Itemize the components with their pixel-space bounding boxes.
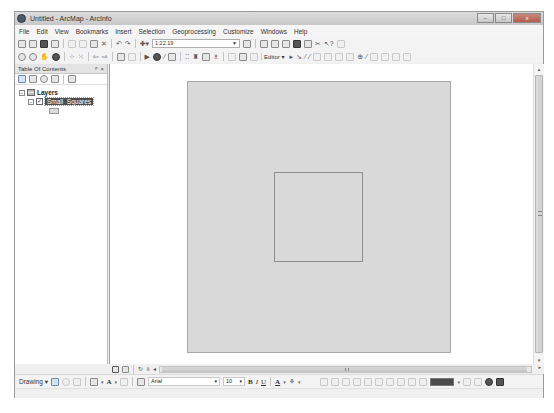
undo-icon[interactable]: ↶ <box>116 39 122 48</box>
search-icon[interactable] <box>282 40 290 48</box>
chevron-down-icon[interactable]: ▾ <box>115 379 118 385</box>
zoom-to-selected-icon[interactable] <box>73 378 81 386</box>
refresh-icon[interactable]: ↻ <box>138 365 143 374</box>
data-frame-label[interactable]: Layers <box>37 89 58 96</box>
vertical-scrollbar[interactable]: ▴ ▾ <box>533 64 544 365</box>
select-elements-icon[interactable]: ▶ <box>145 52 150 61</box>
horizontal-scroll-thumb[interactable] <box>162 367 527 372</box>
go-to-xy-icon[interactable]: ♗ <box>213 52 219 61</box>
time-slider-icon[interactable] <box>228 53 236 61</box>
layout-view-icon[interactable] <box>122 366 129 373</box>
pause-drawing-icon[interactable]: ॥ <box>146 365 150 374</box>
new-text-icon[interactable]: A <box>106 378 111 386</box>
scroll-up-icon[interactable]: ▴ <box>534 64 544 74</box>
toolbar-options-icon[interactable] <box>250 53 258 61</box>
edit-vertices-icon[interactable] <box>120 378 128 386</box>
chevron-down-icon[interactable]: ▾ <box>283 379 286 385</box>
map-display[interactable] <box>109 64 533 365</box>
collapse-icon[interactable]: − <box>19 90 25 96</box>
split-tool-icon[interactable] <box>324 53 332 61</box>
list-by-visibility-icon[interactable] <box>40 75 48 83</box>
menu-windows[interactable]: Windows <box>261 28 287 35</box>
back-icon[interactable]: ⇦ <box>93 52 99 61</box>
point-tool-icon[interactable] <box>313 53 321 61</box>
sketch-properties-icon[interactable]: ⊕ <box>357 52 363 61</box>
forward-icon[interactable]: ⇨ <box>102 52 108 61</box>
maximize-button[interactable]: □ <box>495 13 512 23</box>
identify-icon[interactable] <box>153 53 161 61</box>
vertical-scroll-thumb[interactable] <box>535 75 543 353</box>
data-view-icon[interactable] <box>112 366 119 373</box>
toolbar-options-icon[interactable] <box>337 40 345 48</box>
arctoolbox-icon[interactable] <box>293 40 301 48</box>
find-icon[interactable]: ♜ <box>193 52 199 61</box>
zoom-in-icon[interactable] <box>18 53 26 61</box>
group-icon[interactable] <box>331 378 339 386</box>
font-size-combobox[interactable]: 10 ▾ <box>223 377 245 386</box>
trace-icon[interactable]: ⁄ <box>309 52 310 61</box>
layer-symbol-patch[interactable] <box>49 108 59 114</box>
chevron-down-icon[interactable]: ▾ <box>215 378 218 385</box>
cut-icon[interactable] <box>68 40 76 48</box>
fixed-zoom-in-icon[interactable]: ⁘ <box>69 52 75 61</box>
menu-edit[interactable]: Edit <box>36 28 47 35</box>
find-route-icon[interactable] <box>202 53 210 61</box>
new-document-icon[interactable] <box>18 40 26 48</box>
chevron-down-icon[interactable]: ▾ <box>298 379 301 385</box>
hyperlink-icon[interactable]: ⁄ <box>164 52 165 61</box>
menu-geoprocessing[interactable]: Geoprocessing <box>172 28 216 35</box>
create-viewer-icon[interactable] <box>239 53 247 61</box>
list-by-source-icon[interactable] <box>29 75 37 83</box>
create-features-icon[interactable]: ⁄ <box>366 52 367 61</box>
nudge-icon[interactable] <box>419 378 427 386</box>
measure-icon[interactable]: ⁚⁚ <box>185 52 189 61</box>
collapse-icon[interactable]: − <box>28 99 34 105</box>
edit-tool-icon[interactable]: ▸ <box>289 52 293 61</box>
list-by-drawing-order-icon[interactable] <box>18 75 26 83</box>
reshape-icon[interactable] <box>381 53 389 61</box>
italic-button[interactable]: I <box>256 378 258 386</box>
menu-customize[interactable]: Customize <box>223 28 254 35</box>
align-icon[interactable] <box>375 378 383 386</box>
chevron-down-icon[interactable]: ▾ <box>240 378 243 385</box>
underline-button[interactable]: U <box>261 378 266 386</box>
symbol-icon[interactable] <box>485 378 493 386</box>
close-icon[interactable]: × <box>100 66 104 72</box>
menu-help[interactable]: Help <box>294 28 307 35</box>
drawing-menu-button[interactable]: Drawing ▾ <box>19 378 48 386</box>
minimize-button[interactable]: – <box>477 13 494 23</box>
copy-icon[interactable] <box>79 40 87 48</box>
horizontal-scrollbar[interactable] <box>159 366 532 373</box>
chevron-down-icon[interactable]: ▾ <box>101 379 104 385</box>
menu-bookmarks[interactable]: Bookmarks <box>76 28 109 35</box>
tree-node-layers[interactable]: − Layers <box>19 88 107 97</box>
options-icon[interactable] <box>68 75 76 83</box>
scroll-right-icon[interactable]: ▸ <box>538 364 541 370</box>
ungroup-icon[interactable] <box>342 378 350 386</box>
editor-toolbar-icon[interactable] <box>243 40 251 48</box>
python-icon[interactable] <box>304 40 312 48</box>
flip-icon[interactable] <box>408 378 416 386</box>
rotate-right-icon[interactable] <box>397 378 405 386</box>
menu-file[interactable]: File <box>19 28 29 35</box>
font-name-combobox[interactable]: Arial ▾ <box>148 377 220 386</box>
menu-view[interactable]: View <box>55 28 69 35</box>
pin-icon[interactable]: ᵖ <box>95 66 97 72</box>
delete-icon[interactable]: ✕ <box>101 39 107 48</box>
distribute-icon[interactable] <box>386 378 394 386</box>
edit-vertices-icon[interactable] <box>370 53 378 61</box>
table-of-contents-icon[interactable] <box>260 40 268 48</box>
rotate-tool-icon[interactable] <box>335 53 343 61</box>
fixed-zoom-out-icon[interactable]: ⁙ <box>78 52 84 61</box>
paste-icon[interactable] <box>90 40 98 48</box>
font-color-button[interactable]: A <box>275 378 280 386</box>
fill-color-swatch[interactable] <box>430 378 454 386</box>
add-data-icon[interactable]: ✚▾ <box>140 39 149 48</box>
model-builder-icon[interactable]: ✂ <box>315 39 321 48</box>
cut-polygons-icon[interactable] <box>392 53 400 61</box>
chevron-down-icon[interactable]: ▼ <box>232 40 237 47</box>
menu-selection[interactable]: Selection <box>138 28 165 35</box>
rotate-icon[interactable] <box>62 378 70 386</box>
shadow-icon[interactable] <box>496 378 504 386</box>
bold-button[interactable]: B <box>248 378 253 386</box>
